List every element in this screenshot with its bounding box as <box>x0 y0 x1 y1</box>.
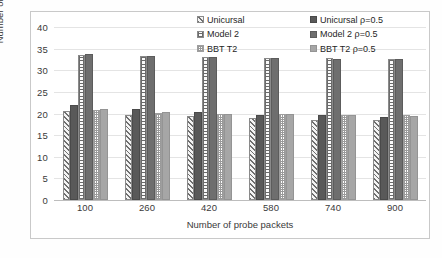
bar-420-series3 <box>209 57 217 200</box>
bar-group-100 <box>54 27 116 200</box>
x-tick-420: 420 <box>178 202 240 213</box>
bar-420-series1 <box>194 112 202 200</box>
bar-740-series4 <box>341 115 349 200</box>
bar-580-series5 <box>286 114 294 200</box>
bar-900-series2 <box>388 59 396 200</box>
bar-260-series4 <box>155 113 163 200</box>
legend-swatch-icon-2 <box>197 31 204 38</box>
x-tick-100: 100 <box>54 202 116 213</box>
x-axis-title: Number of probe packets <box>54 219 426 230</box>
bar-420-series0 <box>187 116 195 200</box>
gridline-0 <box>54 200 426 201</box>
chart-legend: UnicursalModel 2BBT T2 Unicursal ρ=0.5Mo… <box>197 13 423 55</box>
x-axis-tick-labels: 100260420580740900 <box>54 202 426 213</box>
legend-item-4[interactable]: BBT T2 <box>197 42 310 55</box>
chart-figure: Number of accesses 0510152025303540 1002… <box>0 0 442 258</box>
legend-item-2[interactable]: Model 2 <box>197 28 310 41</box>
bar-260-series1 <box>132 109 140 200</box>
legend-swatch-icon-3 <box>310 31 317 38</box>
bar-580-series3 <box>271 58 279 200</box>
y-tick-20: 20 <box>37 108 48 119</box>
legend-label-3: Model 2 ρ=0.5 <box>320 29 377 39</box>
bar-900-series1 <box>380 117 388 200</box>
legend-label-4: BBT T2 <box>207 44 237 54</box>
bar-740-series2 <box>326 58 334 200</box>
bar-420-series4 <box>217 114 225 200</box>
legend-item-1[interactable]: Unicursal ρ=0.5 <box>310 13 423 26</box>
bar-420-series5 <box>224 114 232 200</box>
bar-group-260 <box>116 27 178 200</box>
bar-580-series4 <box>279 114 287 200</box>
bar-100-series5 <box>100 109 108 200</box>
bar-900-series4 <box>403 115 411 200</box>
bar-740-series3 <box>333 59 341 200</box>
y-axis-tick-labels: 0510152025303540 <box>30 27 54 200</box>
bar-900-series3 <box>395 59 403 200</box>
bar-580-series1 <box>256 115 264 200</box>
x-tick-260: 260 <box>116 202 178 213</box>
bar-260-series0 <box>125 115 133 200</box>
bar-260-series2 <box>140 56 148 200</box>
bar-420-series2 <box>202 57 210 200</box>
bar-740-series5 <box>348 115 356 200</box>
y-tick-5: 5 <box>43 173 48 184</box>
legend-column-left: UnicursalModel 2BBT T2 <box>197 13 310 55</box>
y-tick-0: 0 <box>43 195 48 206</box>
legend-label-0: Unicursal <box>207 15 245 25</box>
legend-swatch-icon-4 <box>197 45 204 52</box>
bar-900-series0 <box>373 120 381 200</box>
bar-740-series0 <box>311 120 319 200</box>
y-tick-15: 15 <box>37 130 48 141</box>
bar-740-series1 <box>318 115 326 200</box>
bar-900-series5 <box>410 116 418 200</box>
bar-580-series2 <box>264 58 272 200</box>
x-tick-580: 580 <box>240 202 302 213</box>
bar-100-series3 <box>85 54 93 200</box>
y-tick-35: 35 <box>37 43 48 54</box>
x-tick-740: 740 <box>302 202 364 213</box>
y-axis-title: Number of accesses <box>0 0 5 60</box>
legend-swatch-icon-0 <box>197 16 204 23</box>
bar-100-series1 <box>70 105 78 200</box>
legend-item-0[interactable]: Unicursal <box>197 13 310 26</box>
bar-580-series0 <box>249 118 257 200</box>
legend-label-2: Model 2 <box>207 29 239 39</box>
legend-column-right: Unicursal ρ=0.5Model 2 ρ=0.5BBT T2 ρ=0.5 <box>310 13 423 55</box>
legend-item-3[interactable]: Model 2 ρ=0.5 <box>310 28 423 41</box>
legend-label-5: BBT T2 ρ=0.5 <box>320 44 376 54</box>
legend-item-5[interactable]: BBT T2 ρ=0.5 <box>310 42 423 55</box>
bar-260-series5 <box>162 112 170 200</box>
bar-100-series4 <box>93 110 101 200</box>
bar-100-series2 <box>78 55 86 200</box>
y-tick-30: 30 <box>37 65 48 76</box>
legend-swatch-icon-5 <box>310 45 317 52</box>
y-tick-10: 10 <box>37 151 48 162</box>
legend-swatch-icon-1 <box>310 16 317 23</box>
y-tick-40: 40 <box>37 22 48 33</box>
x-tick-900: 900 <box>364 202 426 213</box>
legend-label-1: Unicursal ρ=0.5 <box>320 15 383 25</box>
y-tick-25: 25 <box>37 86 48 97</box>
bar-260-series3 <box>147 56 155 200</box>
bar-100-series0 <box>63 111 71 200</box>
